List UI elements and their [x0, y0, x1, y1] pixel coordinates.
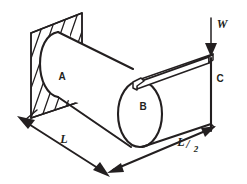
end-cap-b-ellipse	[118, 81, 162, 147]
post-c: C	[211, 58, 224, 131]
arm-front-face	[136, 57, 209, 89]
end-cap-b: B	[118, 81, 162, 147]
label-dimension-l: L	[59, 132, 67, 146]
load-arrow-head	[205, 43, 217, 57]
cantilever-diagram-svg: A B C W	[0, 0, 247, 184]
dim-arrow-l-end	[93, 162, 110, 177]
label-lhalf-denominator: 2	[193, 144, 199, 154]
load-arrow-w: W	[205, 17, 229, 57]
figure-root: A B C W	[0, 0, 247, 184]
label-c: C	[216, 73, 223, 84]
label-lhalf-slash: /	[185, 137, 191, 151]
label-b: B	[139, 101, 146, 112]
shaft-a: A	[40, 32, 133, 147]
dim-arrow-lhalf-start	[107, 163, 124, 173]
dimension-lines: L L / 2	[17, 110, 216, 177]
label-lhalf-numerator: L	[176, 135, 184, 149]
arm-member	[133, 54, 213, 90]
label-a: A	[58, 71, 65, 82]
label-dimension-l-half: L / 2	[176, 135, 198, 154]
dim-line-l	[24, 121, 104, 172]
label-w: W	[217, 17, 229, 31]
